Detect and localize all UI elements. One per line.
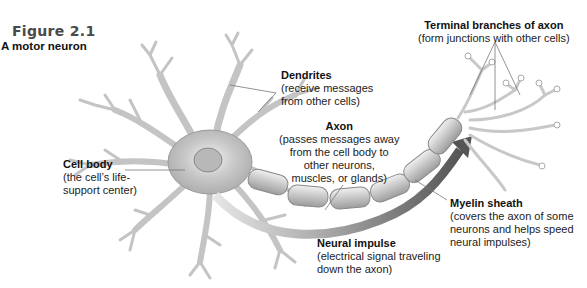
figure-number: Figure 2.1 <box>12 23 95 39</box>
label-desc: muscles, or glands) <box>279 172 399 185</box>
nucleus <box>194 148 222 172</box>
label-neural-impulse: Neural impulse (electrical signal travel… <box>317 237 441 276</box>
label-desc: (passes messages away <box>279 133 399 146</box>
label-desc: from other cells) <box>281 95 373 108</box>
label-title: Dendrites <box>281 69 373 82</box>
figure-title: A motor neuron <box>1 40 87 52</box>
terminal-branches <box>458 58 555 190</box>
label-myelin-sheath: Myelin sheath (covers the axon of some n… <box>450 197 574 249</box>
label-desc: neural impulses) <box>450 236 574 249</box>
label-desc: (the cell’s life- <box>63 171 137 184</box>
label-cell-body: Cell body (the cell’s life- support cent… <box>63 158 137 197</box>
label-title: Cell body <box>63 158 137 171</box>
label-desc: from the cell body to <box>279 146 399 159</box>
label-title: Axon <box>279 120 399 133</box>
label-title: Myelin sheath <box>450 197 574 210</box>
label-desc: (electrical signal traveling <box>317 250 441 263</box>
label-desc: (form junctions with other cells) <box>418 32 570 45</box>
label-dendrites: Dendrites (receive messages from other c… <box>281 69 373 108</box>
label-terminal-branches: Terminal branches of axon (form junction… <box>418 19 570 45</box>
label-axon: Axon (passes messages away from the cell… <box>279 120 399 185</box>
label-title: Terminal branches of axon <box>418 19 570 32</box>
label-desc: neurons and helps speed <box>450 223 574 236</box>
label-desc: (receive messages <box>281 82 373 95</box>
label-title: Neural impulse <box>317 237 441 250</box>
label-desc: support center) <box>63 184 137 197</box>
label-desc: (covers the axon of some <box>450 210 574 223</box>
label-desc: other neurons, <box>279 159 399 172</box>
label-desc: down the axon) <box>317 263 441 276</box>
